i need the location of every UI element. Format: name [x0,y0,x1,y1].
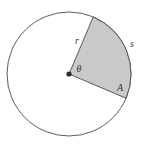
circle-sector-graphic [0,0,142,149]
area-label: A [117,83,123,93]
arc-length-label: s [130,39,134,49]
circle-sector-figure: r s θ A [0,0,142,149]
radius-label: r [75,36,79,46]
center-point-dot [66,71,71,76]
central-angle-label: θ [77,64,82,74]
